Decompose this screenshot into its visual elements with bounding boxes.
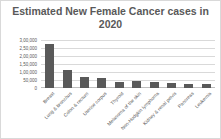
y-tick-label: 0 <box>1 86 37 91</box>
y-tick-label: 3,00,000 <box>1 38 37 43</box>
y-tick-label: 1,50,000 <box>1 62 37 67</box>
x-tick-label: Breast <box>42 91 55 104</box>
x-tick-label: Leukemia <box>194 91 212 109</box>
x-tick-label: Pancreas <box>177 91 195 109</box>
y-tick-label: 50,000 <box>1 78 37 83</box>
bar <box>167 83 176 88</box>
x-tick-label: Kidney & renal pelvis <box>142 91 177 126</box>
gridline <box>41 48 215 49</box>
y-tick-label: 2,00,000 <box>1 54 37 59</box>
gridline <box>41 64 215 65</box>
y-tick-label: 2,50,000 <box>1 46 37 51</box>
y-tick-label: 1,00,000 <box>1 70 37 75</box>
bar <box>150 82 159 88</box>
bar <box>202 84 211 88</box>
bar <box>132 81 141 88</box>
bar <box>115 82 124 88</box>
x-tick-label: Thyroid <box>110 91 125 106</box>
title-line-1: Estimated New Female Cancer cases in <box>1 5 220 18</box>
gridline <box>41 40 215 41</box>
bar <box>97 78 106 88</box>
gridline <box>41 56 215 57</box>
bar <box>63 70 72 88</box>
plot-area <box>41 40 215 88</box>
bar <box>184 84 193 88</box>
bar <box>45 44 54 88</box>
title-line-2: 2020 <box>1 18 220 31</box>
chart-container: Estimated New Female Cancer cases in 202… <box>0 0 221 139</box>
bar <box>80 77 89 88</box>
chart-title: Estimated New Female Cancer cases in 202… <box>1 5 220 31</box>
